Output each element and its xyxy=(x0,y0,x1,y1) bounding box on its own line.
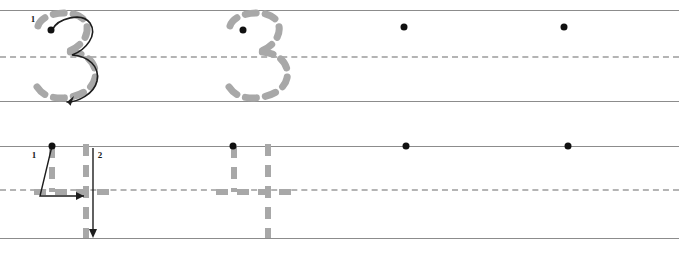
traced-digit-three-guided xyxy=(22,4,114,112)
practice-start-dot xyxy=(561,24,568,31)
practice-start-dot xyxy=(565,143,572,150)
stroke-number-label: 1 xyxy=(31,15,36,24)
traced-digit-three-dashed xyxy=(214,4,306,112)
tracing-worksheet: 1 1 2 xyxy=(0,0,679,256)
practice-start-dot xyxy=(403,143,410,150)
practice-row-four: 1 2 xyxy=(0,128,679,256)
start-dot-three-guided xyxy=(48,27,55,34)
practice-start-dot xyxy=(401,24,408,31)
traced-digit-four-dashed xyxy=(204,138,314,248)
practice-row-three: 1 xyxy=(0,0,679,128)
stroke-number-label: 1 xyxy=(32,151,37,160)
stroke-number-label: 2 xyxy=(98,151,103,160)
traced-digit-four-guided xyxy=(22,138,132,248)
start-dot-three-dashed xyxy=(240,27,247,34)
start-dot-four-guided xyxy=(49,143,56,150)
start-dot-four-dashed xyxy=(230,143,237,150)
